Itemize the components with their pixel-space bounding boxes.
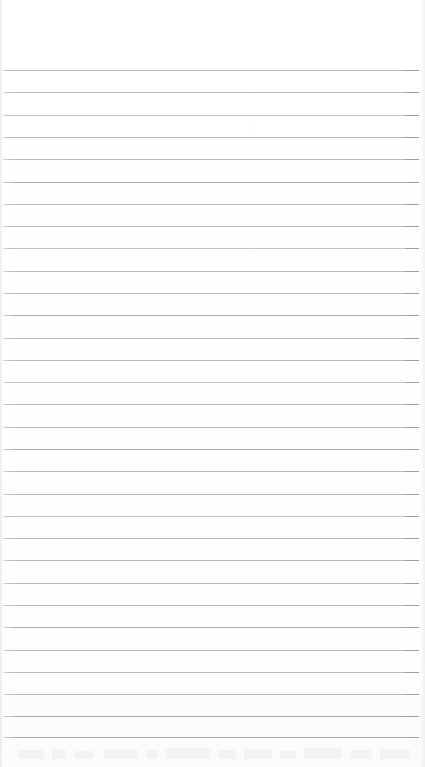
writing-line-slot[interactable] — [3, 316, 419, 338]
writing-line-slot[interactable] — [3, 294, 419, 315]
writing-line-slot[interactable] — [3, 93, 419, 115]
writing-line-slot[interactable] — [3, 71, 419, 92]
writing-line-slot[interactable] — [3, 695, 419, 716]
writing-line-slot[interactable] — [3, 138, 419, 159]
writing-line-slot[interactable] — [3, 450, 419, 471]
writing-line-slot[interactable] — [3, 361, 419, 382]
writing-line-slot[interactable] — [3, 517, 419, 538]
writing-line-slot[interactable] — [3, 272, 419, 293]
paper-page: blank — [0, 0, 425, 767]
writing-line-slot[interactable] — [3, 606, 419, 627]
writing-line-slot[interactable] — [3, 227, 419, 248]
writing-line-slot[interactable] — [3, 561, 419, 583]
writing-line-slot[interactable] — [3, 717, 419, 737]
writing-line-slot[interactable] — [3, 160, 419, 182]
writing-line-slot[interactable] — [3, 539, 419, 560]
writing-line-slot[interactable] — [3, 405, 419, 427]
writing-line-slot[interactable] — [3, 495, 419, 516]
writing-line-slot[interactable] — [3, 49, 419, 70]
writing-line-slot[interactable] — [3, 183, 419, 204]
writing-line-slot[interactable] — [3, 205, 419, 226]
writing-line-slot[interactable] — [3, 339, 419, 360]
ruled-writing-area[interactable] — [0, 0, 425, 767]
writing-line-slot[interactable] — [3, 428, 419, 449]
writing-line-slot[interactable] — [3, 249, 419, 271]
writing-line-slot[interactable] — [3, 116, 419, 137]
writing-line-slot[interactable] — [3, 651, 419, 672]
writing-line-slot[interactable] — [3, 673, 419, 694]
writing-line-slot[interactable] — [3, 628, 419, 650]
writing-line-slot[interactable] — [3, 472, 419, 494]
writing-line-slot[interactable] — [3, 584, 419, 605]
writing-line-slot[interactable] — [3, 383, 419, 404]
rule-line — [3, 737, 419, 738]
